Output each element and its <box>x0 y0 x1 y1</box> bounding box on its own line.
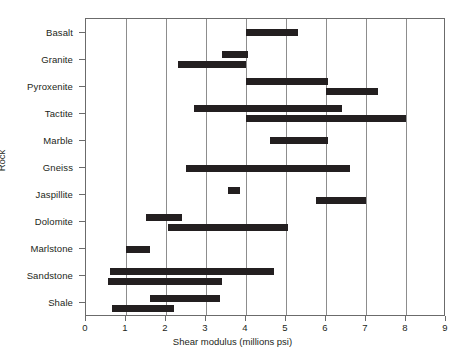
x-axis-label: 1 <box>122 322 127 333</box>
range-bar <box>112 305 174 312</box>
y-axis-label: Shale <box>48 297 73 308</box>
range-bar <box>168 224 288 231</box>
x-axis-tick <box>245 316 246 321</box>
x-axis-label: 7 <box>362 322 367 333</box>
range-bar <box>246 29 298 36</box>
x-axis-tick <box>85 316 86 321</box>
gridline <box>406 19 407 315</box>
range-bar <box>146 214 182 221</box>
range-bar <box>110 268 274 275</box>
range-bar <box>246 78 328 85</box>
x-axis-label: 8 <box>402 322 407 333</box>
range-bar <box>194 105 342 112</box>
x-axis-label: 9 <box>442 322 447 333</box>
range-bar <box>186 165 350 172</box>
x-axis-label: 0 <box>82 322 87 333</box>
y-axis-label: Basalt <box>46 26 73 37</box>
range-bar <box>108 278 222 285</box>
range-bar <box>150 295 220 302</box>
x-axis-tick <box>285 316 286 321</box>
plot-area <box>85 18 445 316</box>
y-axis-label: Sandstone <box>27 270 73 281</box>
x-axis-label: 5 <box>282 322 287 333</box>
x-axis-title: Shear modulus (millions psi) <box>0 336 465 347</box>
range-bar <box>316 197 366 204</box>
shear-modulus-range-chart: Rock BasaltGranitePyroxeniteTactiteMarbl… <box>0 0 465 355</box>
y-axis-labels: BasaltGranitePyroxeniteTactiteMarbleGnei… <box>0 18 77 316</box>
x-axis-labels: 0123456789 <box>85 322 445 336</box>
x-axis-tick <box>445 316 446 321</box>
y-axis-label: Pyroxenite <box>27 80 73 91</box>
y-axis-label: Jaspillite <box>36 189 73 200</box>
x-axis-label: 6 <box>322 322 327 333</box>
y-axis-label: Marlstone <box>30 243 73 254</box>
gridline <box>366 19 367 315</box>
x-axis-tick <box>325 316 326 321</box>
y-axis-label: Gneiss <box>43 162 73 173</box>
range-bar <box>270 137 328 144</box>
y-axis-label: Granite <box>41 53 73 64</box>
y-axis-label: Dolomite <box>35 216 73 227</box>
range-bar <box>222 51 248 58</box>
y-axis-label: Marble <box>43 134 73 145</box>
x-axis-label: 2 <box>162 322 167 333</box>
y-axis-label: Tactite <box>45 107 73 118</box>
x-axis-tick <box>365 316 366 321</box>
x-axis-tick <box>405 316 406 321</box>
range-bar <box>326 88 378 95</box>
x-axis-tick <box>125 316 126 321</box>
x-axis-tick <box>205 316 206 321</box>
range-bar <box>228 187 240 194</box>
range-bar <box>178 61 246 68</box>
range-bar <box>126 246 150 253</box>
x-axis-label: 3 <box>202 322 207 333</box>
x-axis-label: 4 <box>242 322 247 333</box>
range-bar <box>246 115 406 122</box>
x-axis-tick <box>165 316 166 321</box>
